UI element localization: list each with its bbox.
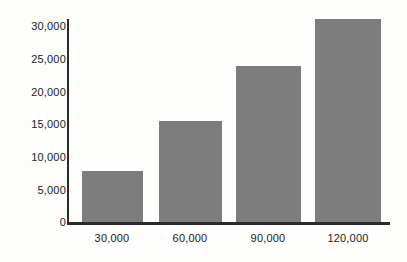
- y-tick-label-30000: 30,000: [0, 21, 66, 32]
- y-tick-label-20000: 20,000: [0, 87, 66, 98]
- y-tick-label-10000: 10,000: [0, 152, 66, 163]
- bar-chart: 30,000 25,000 20,000 15,000 10,000 5,000…: [0, 0, 407, 262]
- bar-60000: [159, 121, 222, 223]
- y-tick-label-5000: 5,000: [0, 185, 66, 196]
- y-tick-label-15000: 15,000: [0, 119, 66, 130]
- bar-90000: [236, 66, 301, 222]
- y-tick-label-0: 0: [0, 217, 66, 228]
- bar-120000: [315, 19, 381, 222]
- plot-area: [69, 19, 390, 222]
- x-axis-line: [67, 222, 390, 225]
- bar-30000: [82, 171, 143, 222]
- x-tick-label-120000: 120,000: [298, 233, 398, 244]
- y-tick-label-25000: 25,000: [0, 54, 66, 65]
